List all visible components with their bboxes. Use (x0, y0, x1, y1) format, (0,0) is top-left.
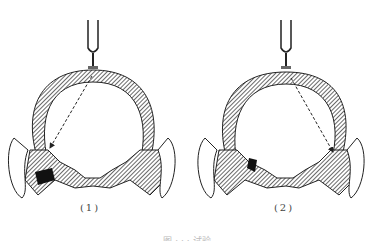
panel-label: (2) (254, 202, 314, 213)
panel-label: (1) (60, 202, 120, 213)
skull-cross-section (8, 70, 175, 198)
panel-1: (1) (0, 0, 187, 225)
tuning-fork-icon (88, 20, 98, 69)
panel-2: (2) (187, 0, 374, 225)
skull-cross-section (198, 72, 364, 198)
tuning-fork-icon (281, 20, 291, 69)
figure-caption: 图 · · · 试验 (0, 234, 374, 241)
